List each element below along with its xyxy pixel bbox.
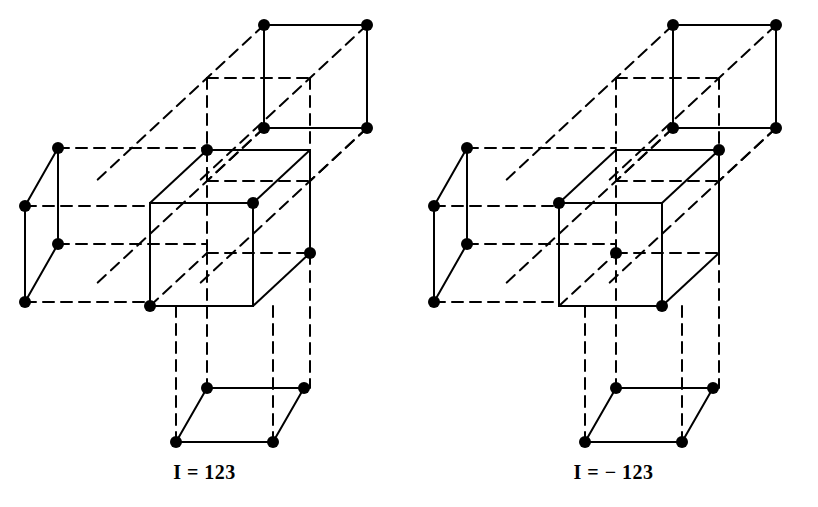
bottom-cube-connector-right <box>682 388 713 442</box>
vertex-dot <box>461 238 473 250</box>
vertex-dot <box>579 436 591 448</box>
vertex-dot <box>52 142 64 154</box>
vertex-dot <box>361 122 373 134</box>
figure-panel-right: I = − 123 <box>409 0 818 507</box>
vertex-dot <box>553 197 565 209</box>
vertex-dot <box>656 300 668 312</box>
center-cube-connector-fbl <box>150 253 207 306</box>
vertex-dot-group <box>428 19 782 448</box>
vertex-dot <box>361 19 373 31</box>
vertex-dot <box>52 238 64 250</box>
top-cube-connector-fbl <box>616 128 673 181</box>
long-diagonal-dashed-lines <box>502 25 776 287</box>
vertex-dot <box>428 296 440 308</box>
bottom-cube-connector-right <box>273 388 304 442</box>
diagonal-dash-b <box>605 25 776 184</box>
bottom-cube-connector-left <box>176 388 207 442</box>
vertex-dot <box>304 247 316 259</box>
left-cube-connector-bottom <box>25 244 58 302</box>
bottom-cube-solid-edges <box>176 388 304 442</box>
bottom-cube-solid-edges <box>585 388 713 442</box>
diagonal-dash-a <box>502 25 673 184</box>
vertex-dot <box>610 382 622 394</box>
top-cube-connector-fbr <box>719 128 776 181</box>
vertex-dot <box>247 197 259 209</box>
vertex-dot <box>267 436 279 448</box>
top-cube-connectors <box>616 128 776 181</box>
left-cube-solid-edges <box>434 148 467 302</box>
left-cube-connector-top <box>434 148 467 206</box>
center-cube-connector-ftl <box>150 150 207 203</box>
vertex-dot <box>19 296 31 308</box>
center-cube-connectors <box>150 150 310 306</box>
cube-lattice-positive-drawing <box>0 0 409 507</box>
diagonal-dash-b <box>196 25 367 184</box>
vertex-dot <box>144 300 156 312</box>
center-cube-connector-hidden <box>559 253 616 306</box>
vertex-dot <box>201 144 213 156</box>
center-cube-connector-ftr <box>662 150 719 203</box>
figure-board: I = 123 <box>0 0 818 507</box>
left-cube-connector-bottom <box>434 244 467 302</box>
vertex-dot <box>707 382 719 394</box>
center-cube-connector-hidden <box>150 253 207 306</box>
top-cube-connector-fbl <box>207 128 264 181</box>
center-cube-connector-fbl <box>559 253 616 306</box>
vertex-dot <box>676 436 688 448</box>
vertex-dot-group <box>19 19 373 448</box>
vertex-dot <box>258 19 270 31</box>
vertex-dot <box>258 122 270 134</box>
vertex-dot <box>770 19 782 31</box>
vertex-dot <box>770 122 782 134</box>
caption-right: I = − 123 <box>409 462 818 482</box>
vertex-dot <box>667 122 679 134</box>
left-cube-solid-edges <box>25 148 58 302</box>
left-cube-connector-top <box>25 148 58 206</box>
vertex-dot <box>610 247 622 259</box>
figure-panel-left: I = 123 <box>0 0 409 507</box>
bottom-cube-connector-left <box>585 388 616 442</box>
vertex-dot <box>298 382 310 394</box>
center-cube-connector-fbr <box>662 253 719 306</box>
center-cube-connector-ftl <box>559 150 616 203</box>
top-cube-connector-fbr <box>310 128 367 181</box>
long-diagonal-dashed-lines <box>93 25 367 287</box>
cube-lattice-negative-drawing <box>409 0 818 507</box>
vertex-dot <box>461 142 473 154</box>
caption-left: I = 123 <box>0 462 409 482</box>
diagonal-dash-a <box>93 25 264 184</box>
vertex-dot <box>667 19 679 31</box>
center-cube-connector-fbr <box>253 253 310 306</box>
vertex-dot <box>713 144 725 156</box>
vertex-dot <box>201 382 213 394</box>
vertex-dot <box>19 200 31 212</box>
top-cube-connectors <box>207 128 367 181</box>
vertex-dot <box>428 200 440 212</box>
center-cube-connectors <box>559 150 719 306</box>
vertex-dot <box>170 436 182 448</box>
center-cube-connector-ftr <box>253 150 310 203</box>
